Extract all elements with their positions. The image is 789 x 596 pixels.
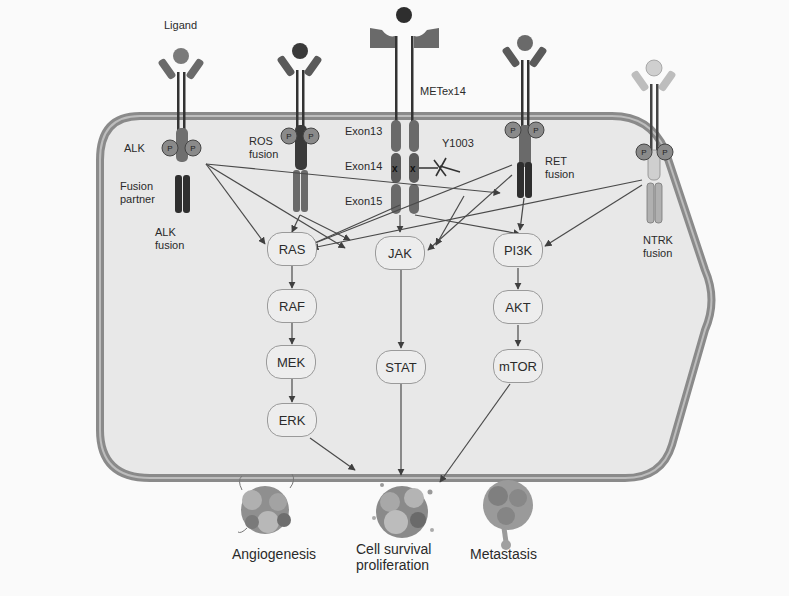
node-jak: JAK [375,236,425,270]
alk-fusion-label-2: fusion [155,239,184,252]
alk-label: ALK [124,142,145,155]
exon15-label: Exon15 [345,195,382,208]
ligand-label: Ligand [164,19,197,32]
svg-text:x: x [392,163,398,174]
svg-text:x: x [410,163,416,174]
outcome-metastasis: Metastasis [470,546,537,562]
ret-label-1: RET [545,155,567,168]
svg-text:P: P [190,144,195,153]
svg-text:P: P [510,126,515,135]
node-akt: AKT [493,290,543,324]
svg-text:P: P [308,132,313,141]
svg-text:P: P [286,132,291,141]
exon14-label: Exon14 [345,160,382,173]
outcome-angiogenesis: Angiogenesis [232,546,316,562]
svg-text:P: P [641,148,646,157]
outcome-survival-2: proliferation [356,557,429,573]
ntrk-label-1: NTRK [643,234,673,247]
node-raf: RAF [267,289,317,323]
fusion-partner-label-1: Fusion [120,180,153,193]
ret-label-2: fusion [545,168,574,181]
angiogenesis-icon [238,474,294,534]
ntrk-label-2: fusion [643,247,672,260]
svg-text:P: P [167,144,172,153]
outcome-survival-1: Cell survival [356,541,431,557]
cell-survival-icon [372,483,434,538]
cell-membrane [100,116,712,478]
node-mtor: mTOR [493,349,543,383]
node-erk: ERK [267,403,317,437]
node-pi3k: PI3K [493,233,543,267]
node-stat: STAT [376,350,426,384]
exon13-label: Exon13 [345,125,382,138]
ros-label-2: fusion [249,148,278,161]
pathway-diagram: x x PP PP PP PP [0,0,789,596]
y1003-label: Y1003 [442,137,474,150]
node-mek: MEK [266,345,316,379]
svg-text:P: P [533,126,538,135]
ros-label-1: ROS [249,135,273,148]
fusion-partner-label-2: partner [120,193,155,206]
metex14-label: METex14 [420,85,466,98]
metastasis-icon [483,480,533,550]
svg-text:P: P [662,148,667,157]
alk-fusion-label-1: ALK [155,226,176,239]
node-ras: RAS [267,232,317,266]
